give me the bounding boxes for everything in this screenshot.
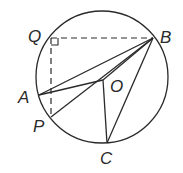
segment-oc xyxy=(103,80,107,143)
right-angle-marker xyxy=(51,38,58,45)
geometry-diagram: Q B A O P C xyxy=(0,0,183,173)
label-a: A xyxy=(17,88,29,107)
label-o: O xyxy=(110,77,123,96)
label-b: B xyxy=(160,28,171,47)
segment-ab xyxy=(39,38,153,95)
label-c: C xyxy=(100,149,113,168)
segment-pb xyxy=(51,38,153,117)
label-p: P xyxy=(33,117,45,136)
label-q: Q xyxy=(28,27,41,46)
segment-ao xyxy=(39,80,103,95)
